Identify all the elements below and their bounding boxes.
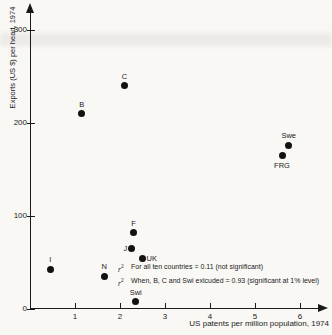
x-tick-6: [300, 303, 301, 309]
y-tick-label-200: 200: [2, 118, 27, 128]
data-point-C: [121, 82, 128, 89]
y-axis-arrow-icon: [26, 3, 34, 13]
x-axis-arrow-icon: [318, 304, 328, 312]
y-tick-label-300: 300: [2, 25, 27, 35]
r-squared-symbol: r2: [118, 262, 131, 274]
x-tick-2: [120, 303, 121, 309]
x-tick-label-5: 5: [247, 312, 263, 322]
y-axis-line: [30, 10, 31, 309]
x-tick-label-4: 4: [202, 312, 218, 322]
x-tick-label-6: 6: [292, 312, 308, 322]
x-tick-5: [255, 303, 256, 309]
y-tick-300: [27, 30, 35, 31]
x-tick-label-3: 3: [157, 312, 173, 322]
data-point-label-B: B: [67, 100, 97, 109]
data-point-Swe: [285, 142, 292, 149]
y-tick-label-100: 100: [2, 211, 27, 221]
data-point-label-FRG: FRG: [267, 161, 297, 170]
scan-artifact-band: [0, 33, 332, 46]
x-tick-3: [165, 303, 166, 309]
y-axis-title: Exports (US $) per head, 1974: [7, 0, 18, 118]
x-axis-line: [30, 308, 320, 309]
data-point-label-J: J: [97, 244, 127, 253]
data-point-label-C: C: [110, 72, 140, 81]
x-tick-label-1: 1: [67, 312, 83, 322]
annotation-line-2: r2 When, B, C and Swi exlcuded = 0.93 (s…: [118, 276, 319, 288]
y-tick-0: [27, 309, 35, 310]
data-point-J: [128, 245, 135, 252]
data-point-label-Swe: Swe: [274, 131, 304, 140]
annotation-text: For all ten countries = 0.11 (not signif…: [131, 262, 263, 274]
annotation-line-1: r2 For all ten countries = 0.11 (not sig…: [118, 262, 319, 274]
scatter-plot-figure: Exports (US $) per head, 1974 US patents…: [0, 0, 332, 335]
data-point-I: [47, 266, 54, 273]
x-tick-label-2: 2: [112, 312, 128, 322]
data-point-B: [78, 110, 85, 117]
y-tick-100: [27, 216, 35, 217]
annotation-text: When, B, C and Swi exlcuded = 0.93 (sign…: [131, 276, 319, 288]
r-squared-symbol: r2: [118, 276, 131, 288]
data-point-label-F: F: [119, 219, 149, 228]
data-point-F: [130, 229, 137, 236]
data-point-label-N: N: [89, 262, 119, 271]
x-tick-4: [210, 303, 211, 309]
data-point-N: [101, 273, 108, 280]
data-point-Swi: [132, 298, 139, 305]
y-tick-label-0: 0: [2, 304, 27, 314]
r-squared-annotations: r2 For all ten countries = 0.11 (not sig…: [118, 262, 319, 289]
x-tick-1: [75, 303, 76, 309]
data-point-label-I: I: [35, 255, 65, 264]
y-tick-200: [27, 123, 35, 124]
data-point-FRG: [279, 152, 286, 159]
